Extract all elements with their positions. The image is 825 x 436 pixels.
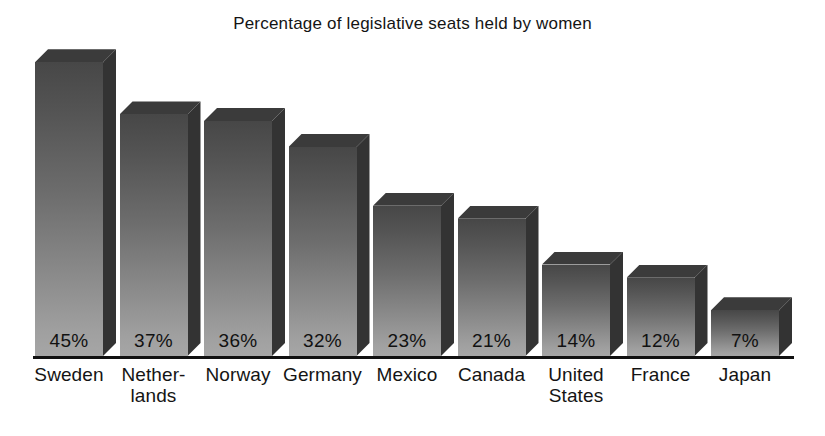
- bar-front-face: [35, 62, 103, 356]
- bar-top-face: [204, 108, 285, 121]
- bar-side-face: [357, 134, 370, 356]
- bar-top-face: [120, 101, 201, 114]
- bar-top-face: [289, 134, 370, 147]
- category-label-mexico: Mexico: [367, 364, 447, 385]
- bar-value-label: 23%: [373, 330, 441, 352]
- bar-canada[interactable]: 21%: [458, 206, 539, 356]
- category-label-germany: Germany: [283, 364, 363, 385]
- category-label-line: Norway: [198, 364, 278, 385]
- category-label-line: United: [536, 364, 616, 385]
- bar-value-label: 12%: [627, 330, 695, 352]
- bar-top-face: [458, 206, 539, 219]
- bar-top-face: [373, 193, 454, 206]
- category-label-sweden: Sweden: [29, 364, 109, 385]
- category-label-france: France: [621, 364, 701, 385]
- bar-value-label: 45%: [35, 330, 103, 352]
- bar-germany[interactable]: 32%: [289, 134, 370, 356]
- plot-area: 45%37%36%32%23%21%14%12%7% SwedenNether-…: [0, 0, 825, 436]
- bar-side-face: [526, 206, 539, 356]
- category-label-canada: Canada: [452, 364, 532, 385]
- bar-top-face: [35, 49, 116, 62]
- bar-france[interactable]: 12%: [627, 265, 708, 356]
- bar-sweden[interactable]: 45%: [35, 49, 116, 356]
- bar-top-face: [542, 252, 623, 265]
- bar-front-face: [289, 147, 357, 356]
- category-label-line: Germany: [283, 364, 363, 385]
- bar-side-face: [272, 108, 285, 356]
- bar-top-face: [711, 297, 792, 310]
- bar-norway[interactable]: 36%: [204, 108, 285, 356]
- category-label-united-states: UnitedStates: [536, 364, 616, 406]
- bar-front-face: [120, 114, 188, 356]
- bar-netherlands[interactable]: 37%: [120, 101, 201, 356]
- bar-value-label: 7%: [711, 330, 779, 352]
- bar-side-face: [441, 193, 454, 356]
- bar-top-face: [627, 265, 708, 278]
- category-label-line: Sweden: [29, 364, 109, 385]
- bar-value-label: 36%: [204, 330, 272, 352]
- bar-japan[interactable]: 7%: [711, 297, 792, 356]
- category-label-line: Japan: [705, 364, 785, 385]
- bar-value-label: 21%: [458, 330, 526, 352]
- category-label-netherlands: Nether-lands: [114, 364, 194, 406]
- bar-side-face: [610, 252, 623, 356]
- category-label-line: France: [621, 364, 701, 385]
- category-label-line: lands: [114, 385, 194, 406]
- category-label-line: Mexico: [367, 364, 447, 385]
- x-axis-line: [33, 356, 794, 359]
- category-label-line: States: [536, 385, 616, 406]
- bar-value-label: 14%: [542, 330, 610, 352]
- bar-side-face: [103, 49, 116, 356]
- bar-mexico[interactable]: 23%: [373, 193, 454, 356]
- bar-united-states[interactable]: 14%: [542, 252, 623, 356]
- bar-side-face: [695, 265, 708, 356]
- bar-value-label: 37%: [120, 330, 188, 352]
- category-label-line: Canada: [452, 364, 532, 385]
- chart-page: Percentage of legislative seats held by …: [0, 0, 825, 436]
- category-label-line: Nether-: [114, 364, 194, 385]
- category-label-japan: Japan: [705, 364, 785, 385]
- bar-side-face: [188, 101, 201, 356]
- bar-value-label: 32%: [289, 330, 357, 352]
- bar-front-face: [204, 121, 272, 356]
- category-label-norway: Norway: [198, 364, 278, 385]
